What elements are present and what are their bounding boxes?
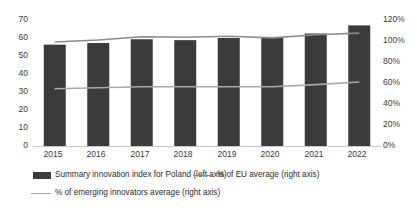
bar-2017 (131, 39, 153, 146)
legend-label-eu-average: % of EU average (right axis) (217, 170, 319, 180)
line-swatch-light-icon (31, 193, 51, 194)
innovation-index-chart: 70 60 50 40 30 20 10 0 120% 100% 80% 60%… (0, 0, 417, 211)
bar-2021 (305, 34, 327, 147)
bar-2015 (44, 45, 66, 146)
x-axis-label-2017: 2017 (120, 150, 160, 159)
bar-2018 (174, 40, 196, 146)
bar-2016 (87, 43, 109, 146)
chart-legend: Summary innovation index for Poland (lef… (0, 166, 417, 211)
bar-2020 (261, 37, 283, 146)
plot-area: 70 60 50 40 30 20 10 0 120% 100% 80% 60%… (0, 0, 417, 160)
x-axis-label-2019: 2019 (207, 150, 247, 159)
legend-label-emerging-innovators-average: % of emerging innovators average (right … (55, 188, 220, 198)
legend-item-emerging-innovators-average[interactable]: % of emerging innovators average (right … (31, 188, 220, 198)
x-axis-label-2022: 2022 (337, 150, 377, 159)
x-axis-label-2016: 2016 (76, 150, 116, 159)
line-swatch-icon (193, 175, 213, 176)
bar-series (44, 25, 371, 146)
x-axis-label-2015: 2015 (33, 150, 73, 159)
x-axis-label-2021: 2021 (294, 150, 334, 159)
x-axis-label-2018: 2018 (163, 150, 203, 159)
series-layer (0, 0, 417, 160)
bar-swatch-icon (33, 172, 51, 179)
bar-2022 (348, 25, 370, 146)
bar-2019 (218, 38, 240, 146)
legend-item-eu-average[interactable]: % of EU average (right axis) (193, 170, 319, 180)
x-axis-label-2020: 2020 (250, 150, 290, 159)
